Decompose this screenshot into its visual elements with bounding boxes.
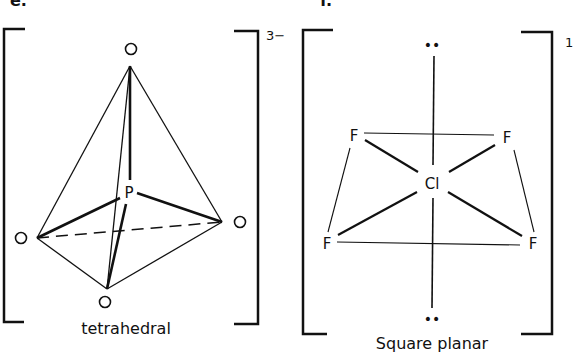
geometry-label-tetrahedral: tetrahedral [81,319,171,338]
left-bracket [303,30,333,334]
fluorine-atom-top-right: F [503,129,512,147]
fluorine-atom-top-left: F [350,127,359,145]
central-atom-p: P [124,184,133,202]
oxygen-atom-left [16,233,27,244]
right-bracket [234,31,258,324]
fluorine-atom-bottom-left: F [323,235,332,253]
charge-label: 3− [266,28,285,43]
lone-pair-bottom: •• [424,311,441,327]
p-o-bonds [37,66,222,289]
oxygen-atom-right [235,217,246,228]
charge-label: 1 [565,35,573,50]
fluorine-atom-bottom-right: F [529,235,538,253]
panel-label-e: e. [10,0,27,10]
panel-tetrahedral: e. 3− P tetrahedral [4,0,285,338]
right-bracket [521,32,552,334]
central-atom-cl: Cl [425,175,440,193]
lone-pair-top: •• [424,37,441,53]
oxygen-atom-top [126,44,137,55]
oxygen-atom-bottom [100,297,111,308]
geometry-label-square-planar: Square planar [376,334,489,352]
panel-square-planar: f. 1 •• •• F F F F Cl [303,0,573,352]
molecular-geometry-diagram: e. 3− P tetrahedral f. [0,0,577,352]
panel-label-f: f. [320,0,332,10]
left-bracket [4,29,25,322]
